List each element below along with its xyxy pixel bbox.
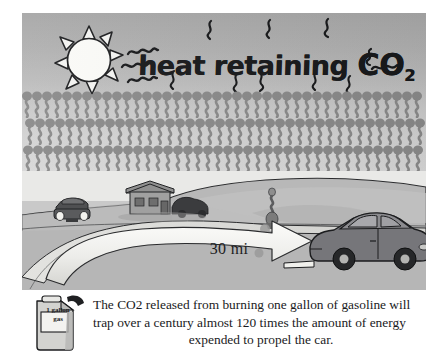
arrow-distance-label: 30 mi	[196, 240, 262, 258]
landscape-panel	[22, 171, 426, 290]
gas-can-label: 1 gallon gas	[39, 306, 77, 324]
title-co: CO	[356, 47, 405, 82]
caption-line-2: trap over a century almost 120 times the…	[93, 314, 429, 332]
gas-can-label-line2: gas	[53, 315, 63, 323]
molecule-row	[22, 91, 426, 116]
caption-line-3: expended to propel the car.	[93, 331, 429, 349]
caption: The CO2 released from burning one gallon…	[93, 296, 429, 349]
caption-line-1: The CO2 released from burning one gallon…	[93, 296, 429, 314]
squiggle-icon	[204, 19, 216, 41]
sun-icon	[52, 23, 126, 97]
molecule-row	[22, 118, 426, 143]
sky-panel: heat retaining CO2	[22, 13, 426, 171]
squiggle-icon	[263, 18, 275, 40]
gas-can-label-line1: 1 gallon	[46, 306, 70, 314]
page-title: heat retaining CO2	[137, 43, 399, 87]
squiggle-icon	[322, 17, 334, 39]
title-subscript: 2	[404, 66, 415, 85]
illustration-page: heat retaining CO2	[0, 0, 437, 362]
title-main: heat retaining	[137, 50, 357, 81]
co2-molecule-layer	[22, 91, 426, 171]
molecule-row	[22, 145, 426, 170]
